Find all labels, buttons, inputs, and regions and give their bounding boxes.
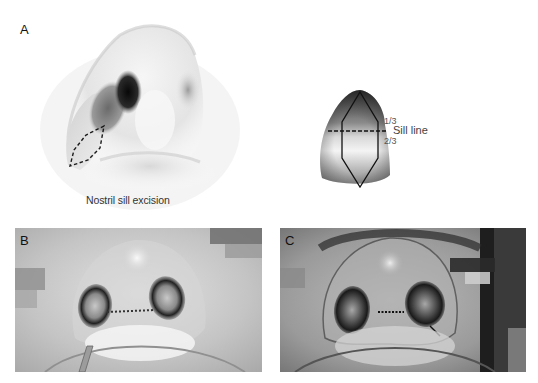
panel-a-detail: 1/3 Sill line 2/3 — [290, 60, 440, 210]
panel-c: C — [280, 228, 526, 372]
nose-illustration — [0, 0, 270, 210]
photo-b — [15, 228, 262, 372]
panel-a: A — [0, 0, 270, 220]
panel-label-c: C — [285, 233, 294, 248]
panel-label-b: B — [20, 233, 29, 248]
label-lower-two-thirds: 2/3 — [384, 136, 397, 146]
panel-label-a: A — [20, 22, 29, 37]
photo-c — [280, 228, 526, 372]
panel-b: B — [15, 228, 262, 372]
label-sill-line: Sill line — [393, 124, 428, 136]
caption-nostril-sill-excision: Nostril sill excision — [86, 194, 170, 206]
